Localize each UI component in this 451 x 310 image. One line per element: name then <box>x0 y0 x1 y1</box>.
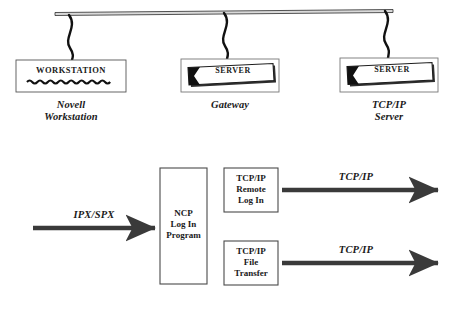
network-diagram: WORKSTATION SERVER SERVER Novell Worksta… <box>0 0 451 310</box>
drop-cables <box>68 11 389 60</box>
arrow-label-ipx-spx: IPX/SPX <box>34 209 154 221</box>
arrow-label-tcpip-file-transfer: TCP/IP <box>296 244 416 256</box>
drop-cable-workstation <box>68 15 73 60</box>
tcpip-file-transfer-label: TCP/IP File Transfer <box>224 246 278 279</box>
drop-cable-gateway <box>223 13 228 59</box>
workstation-icon-label: WORKSTATION <box>16 66 126 76</box>
gateway-server-icon-label: SERVER <box>200 67 266 76</box>
tcpip-remote-login-label: TCP/IP Remote Log In <box>224 173 278 206</box>
tcpip-server-icon-label: SERVER <box>359 66 425 75</box>
caption-novell-workstation: Novell Workstation <box>16 99 126 123</box>
arrow-label-tcpip-remote-login: TCP/IP <box>296 171 416 183</box>
caption-gateway: Gateway <box>181 99 279 111</box>
caption-tcpip-server: TCP/IP Server <box>340 99 438 123</box>
tcpip-server-icon <box>340 58 438 92</box>
ncp-login-program-label: NCP Log In Program <box>160 208 207 241</box>
drop-cable-tcpip-server <box>384 11 389 58</box>
